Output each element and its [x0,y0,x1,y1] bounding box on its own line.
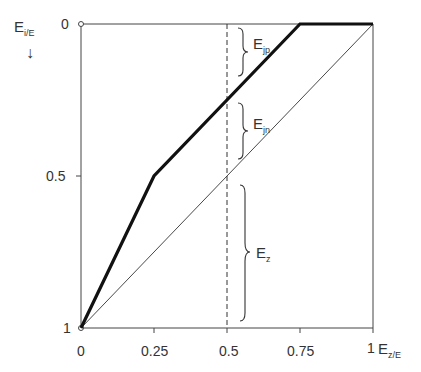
origin-top-marker [79,22,84,27]
ejp-label: Ejp [253,35,270,55]
x-axis-label: Ez/E [378,340,401,360]
x-tick-label-1: 1 [367,340,375,356]
ejn-label: Ejn [253,115,270,135]
y-tick-label-0: 0 [61,16,69,32]
x-tick-label-0: 0 [77,343,85,359]
brace-ejp [238,28,248,76]
y-axis-label: Ei/E [14,18,35,38]
brace-ejn [238,103,248,159]
ez-label: Ez [256,244,271,264]
brace-ez [240,185,250,321]
y-tick-label-05: 0.5 [46,168,65,184]
y-tick-label-1: 1 [63,320,71,336]
x-tick-label-05: 0.5 [219,343,238,359]
x-tick-label-075: 0.75 [287,343,314,359]
chart-canvas [0,0,421,372]
x-tick-label-025: 0.25 [141,343,168,359]
down-arrow-icon: ↓ [26,44,34,62]
